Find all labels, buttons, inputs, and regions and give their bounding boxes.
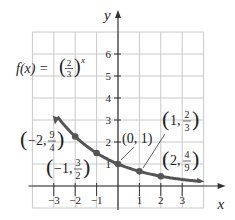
x-tick-label: 1 — [137, 194, 143, 206]
svg-text:1,: 1, — [170, 113, 181, 128]
svg-text:2: 2 — [67, 58, 72, 68]
svg-text:): ) — [192, 106, 199, 131]
point-label: (0, 1) — [122, 131, 153, 147]
svg-text:3: 3 — [67, 69, 72, 79]
x-tick-label: −3 — [48, 194, 60, 206]
y-tick-label: 6 — [106, 48, 112, 60]
y-tick-label: 3 — [106, 114, 112, 126]
point-label: (−2,94) — [20, 126, 64, 153]
svg-text:4: 4 — [185, 149, 190, 160]
svg-text:9: 9 — [50, 129, 55, 140]
y-axis-label: y — [102, 7, 111, 23]
y-axis-arrow-icon — [115, 10, 121, 18]
data-point — [72, 133, 79, 140]
function-label: f(x) = — [16, 61, 48, 77]
svg-text:): ) — [192, 146, 199, 171]
data-point — [158, 173, 165, 180]
svg-text:(: ( — [59, 55, 66, 78]
x-tick-label: −2 — [69, 194, 81, 206]
x-axis-arrow-icon — [218, 183, 226, 189]
svg-text:): ) — [83, 154, 90, 179]
point-label: (2,49) — [162, 146, 199, 173]
point-label: (−1,32) — [46, 154, 90, 181]
svg-text:9: 9 — [185, 162, 190, 173]
svg-text:(: ( — [162, 106, 169, 131]
svg-text:−2,: −2, — [28, 133, 46, 148]
x-axis-label: x — [217, 196, 225, 212]
svg-text:x: x — [80, 55, 85, 65]
svg-text:2: 2 — [185, 109, 190, 120]
svg-text:−1,: −1, — [54, 161, 72, 176]
svg-text:2: 2 — [76, 170, 81, 181]
svg-text:): ) — [74, 55, 81, 78]
y-tick-label: 5 — [106, 70, 112, 82]
x-tick-label: 3 — [179, 194, 185, 206]
data-point — [136, 168, 143, 175]
y-tick-label: 2 — [106, 136, 112, 148]
x-tick-label: 2 — [158, 194, 164, 206]
x-tick-label: −1 — [91, 194, 103, 206]
svg-text:4: 4 — [50, 142, 55, 153]
svg-text:(: ( — [20, 126, 27, 151]
svg-text:(: ( — [46, 154, 53, 179]
y-tick-label: 4 — [106, 92, 112, 104]
svg-text:): ) — [57, 126, 64, 151]
svg-text:3: 3 — [76, 157, 81, 168]
data-point — [93, 150, 100, 157]
svg-text:2,: 2, — [170, 153, 181, 168]
svg-text:(: ( — [162, 146, 169, 171]
data-point — [115, 161, 122, 168]
svg-text:3: 3 — [185, 122, 190, 133]
exponential-graph: xy−3−2−1123123456 f(x) = (23)x(−2,94)(−1… — [0, 0, 235, 220]
